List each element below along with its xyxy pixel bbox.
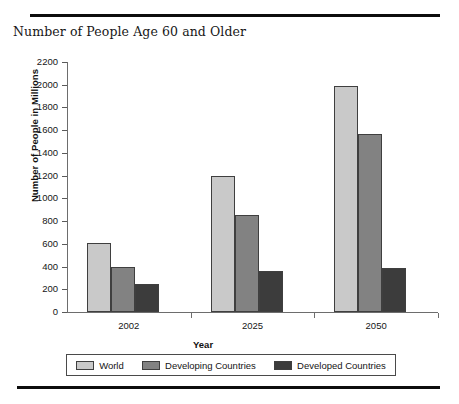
y-axis-tick-mark xyxy=(62,85,67,86)
y-axis-tick-mark xyxy=(62,153,67,154)
x-axis-tick-mark xyxy=(191,313,192,318)
y-axis-tick-label: 800 xyxy=(24,216,58,226)
bar-developing-countries-2050 xyxy=(358,134,382,312)
bar-developed-countries-2050 xyxy=(382,268,406,312)
y-axis-tick-label: 2000 xyxy=(24,80,58,90)
bar-developing-countries-2002 xyxy=(111,267,135,312)
x-axis-line xyxy=(67,312,438,313)
legend-swatch-icon xyxy=(76,361,94,370)
chart-page: Number of People Age 60 and Older Number… xyxy=(0,0,459,404)
y-axis-line xyxy=(67,62,68,312)
y-axis-tick-mark xyxy=(62,221,67,222)
x-axis-tick-label: 2025 xyxy=(223,320,283,331)
legend-label: World xyxy=(99,360,124,371)
y-axis-tick-mark xyxy=(62,62,67,63)
chart-legend: WorldDeveloping CountriesDeveloped Count… xyxy=(66,354,396,376)
legend-swatch-icon xyxy=(274,361,292,370)
y-axis-tick-mark xyxy=(62,107,67,108)
y-axis-tick-mark xyxy=(62,130,67,131)
x-axis-tick-mark xyxy=(438,313,439,318)
legend-item: Developed Countries xyxy=(274,360,386,371)
x-axis-tick-label: 2050 xyxy=(346,320,406,331)
y-axis-tick-label: 0 xyxy=(24,307,58,317)
x-axis-title: Year xyxy=(193,339,213,350)
bar-world-2025 xyxy=(211,176,235,312)
bar-developing-countries-2025 xyxy=(235,215,259,312)
bottom-divider xyxy=(17,386,440,389)
bar-world-2002 xyxy=(87,243,111,312)
y-axis-tick-label: 600 xyxy=(24,239,58,249)
y-axis-tick-mark xyxy=(62,198,67,199)
y-axis-tick-label: 1800 xyxy=(24,102,58,112)
y-axis-tick-label: 1600 xyxy=(24,125,58,135)
bar-developed-countries-2025 xyxy=(259,271,283,312)
y-axis-tick-label: 2200 xyxy=(24,57,58,67)
legend-item: Developing Countries xyxy=(142,360,256,371)
y-axis-tick-mark xyxy=(62,289,67,290)
y-axis-tick-mark xyxy=(62,312,67,313)
legend-label: Developed Countries xyxy=(297,360,386,371)
legend-swatch-icon xyxy=(142,361,160,370)
y-axis-tick-label: 1400 xyxy=(24,148,58,158)
y-axis-tick-mark xyxy=(62,176,67,177)
bar-developed-countries-2002 xyxy=(135,284,159,312)
y-axis-tick-label: 1000 xyxy=(24,193,58,203)
y-axis-tick-mark xyxy=(62,244,67,245)
y-axis-tick-label: 200 xyxy=(24,284,58,294)
x-axis-tick-mark xyxy=(314,313,315,318)
bar-world-2050 xyxy=(334,86,358,312)
y-axis-tick-label: 400 xyxy=(24,262,58,272)
chart-plot-area: Number of People in Millions 22002000180… xyxy=(0,0,459,404)
y-axis-tick-label: 1200 xyxy=(24,171,58,181)
legend-label: Developing Countries xyxy=(165,360,256,371)
x-axis-tick-label: 2002 xyxy=(99,320,159,331)
y-axis-tick-mark xyxy=(62,267,67,268)
legend-item: World xyxy=(76,360,124,371)
